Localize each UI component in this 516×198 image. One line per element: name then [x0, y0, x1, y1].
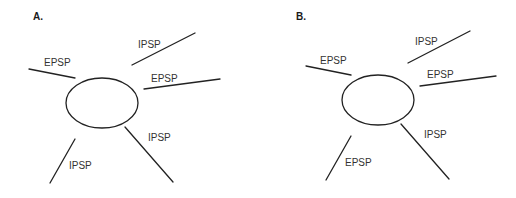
panel-b: B. EPSP IPSP EPSP IPSP EPSP: [296, 11, 496, 180]
panel-b-input-label-lower-right: IPSP: [424, 129, 447, 140]
panel-a-input-label-lower-left: IPSP: [69, 160, 92, 171]
panel-b-label: B.: [296, 11, 306, 22]
panel-b-neuron-soma: [342, 75, 414, 125]
panel-a-label: A.: [33, 11, 43, 22]
panel-b-input-label-upper-right: IPSP: [415, 36, 438, 47]
panel-a-input-label-upper-left: EPSP: [44, 57, 71, 68]
panel-b-input-label-right: EPSP: [427, 69, 454, 80]
panel-a-input-label-lower-right: IPSP: [148, 132, 171, 143]
panel-a-input-label-upper-right: IPSP: [138, 39, 161, 50]
panel-a: A. EPSP IPSP EPSP IPSP IPSP: [29, 11, 220, 183]
panel-a-input-line-upper-left: [29, 69, 75, 78]
diagram-canvas: A. EPSP IPSP EPSP IPSP IPSP B. EPSP IPSP…: [0, 0, 516, 198]
panel-a-neuron-soma: [66, 78, 138, 128]
panel-b-input-line-upper-left: [306, 66, 351, 75]
panel-a-input-label-right: EPSP: [151, 73, 178, 84]
panel-b-input-label-lower-left: EPSP: [345, 157, 372, 168]
panel-b-input-label-upper-left: EPSP: [320, 55, 347, 66]
